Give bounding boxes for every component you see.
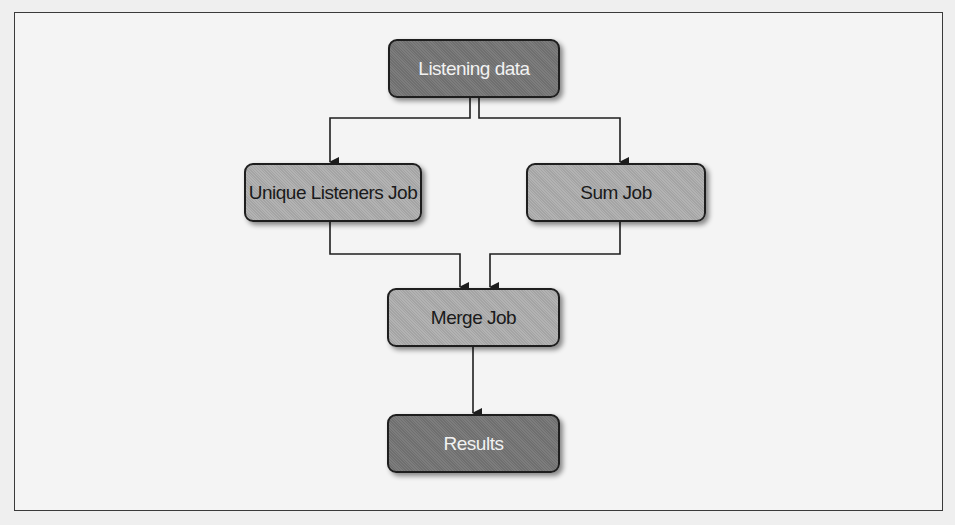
node-label: Listening data bbox=[418, 58, 529, 80]
edge-listening-unique bbox=[330, 98, 470, 162]
node-label: Merge Job bbox=[431, 307, 516, 329]
edge-listening-sum bbox=[479, 98, 620, 162]
edge-unique-merge bbox=[330, 222, 460, 287]
node-merge-job: Merge Job bbox=[387, 288, 560, 347]
node-label: Sum Job bbox=[580, 182, 651, 204]
node-label: Unique Listeners Job bbox=[249, 182, 418, 204]
node-sum-job: Sum Job bbox=[526, 163, 706, 222]
node-results: Results bbox=[387, 414, 560, 473]
node-unique-listeners-job: Unique Listeners Job bbox=[244, 163, 422, 222]
edge-sum-merge bbox=[490, 222, 620, 287]
node-label: Results bbox=[444, 433, 504, 455]
node-listening-data: Listening data bbox=[388, 39, 560, 98]
